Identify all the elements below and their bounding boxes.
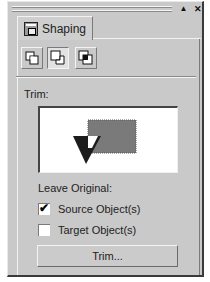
source-objects-option[interactable]: ✔ Source Object(s) [38,203,141,215]
target-objects-label: Target Object(s) [58,224,136,236]
trim-button-action[interactable]: Trim... [37,245,178,267]
leave-original-label: Leave Original: [38,182,112,194]
collapse-icon[interactable]: ▲ [178,4,189,14]
trim-icon [48,48,68,68]
close-icon[interactable]: ✕ [192,4,203,14]
weld-icon [22,48,42,68]
separator [16,76,196,78]
grip-line [12,6,172,8]
grip-line [12,10,172,12]
pane-border [199,39,200,275]
target-objects-checkbox[interactable] [38,224,50,236]
weld-button[interactable] [21,47,43,69]
docker-grip[interactable] [12,5,172,14]
shaping-docker: ▲ ✕ Shaping Trim: Le [7,1,204,277]
tab-label: Shaping [42,22,86,36]
source-objects-label: Source Object(s) [58,203,141,215]
target-objects-option[interactable]: Target Object(s) [38,224,136,236]
checkmark-icon: ✔ [39,201,49,215]
intersect-icon [76,48,96,68]
tab-border [93,38,201,39]
trim-preview [38,106,178,173]
tab-shaping[interactable]: Shaping [17,16,93,40]
source-objects-checkbox[interactable]: ✔ [38,203,50,215]
section-title: Trim: [24,88,49,100]
shaping-docker-icon [24,22,38,36]
intersect-button[interactable] [75,47,97,69]
trim-preview-illustration [40,108,177,172]
trim-button[interactable] [47,47,69,69]
